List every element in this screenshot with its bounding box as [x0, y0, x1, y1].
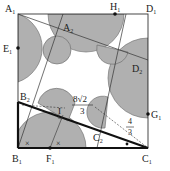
label-b1: B1 — [12, 153, 22, 165]
angle-mark-2: × — [56, 139, 61, 148]
label-c1: C1 — [142, 153, 152, 165]
fraction-numerator: 4 — [128, 117, 132, 126]
fraction-denominator: 3 — [80, 106, 85, 116]
point-e1 — [16, 46, 20, 50]
angle-mark-1: × — [25, 139, 30, 148]
semicircle-e1 — [18, 14, 42, 82]
label-a1: A1 — [5, 3, 15, 15]
label-e1: E1 — [3, 43, 12, 55]
label-h1: H1 — [110, 1, 120, 13]
measurement-4-over-3: 4 3 — [126, 117, 134, 137]
geometry-diagram: × × A1 A2 H1 D1 E1 D2 B2 I G1 C2 B1 F1 C… — [0, 0, 170, 171]
label-b2: B2 — [20, 91, 30, 103]
circle-near-a2 — [43, 36, 71, 64]
label-g1: G1 — [151, 109, 161, 121]
label-d1: D1 — [146, 3, 156, 15]
label-f1: F1 — [46, 153, 55, 165]
label-c2: C2 — [93, 132, 103, 144]
fraction-denominator: 3 — [128, 128, 132, 137]
point-near-c1 — [126, 143, 129, 146]
point-f1 — [48, 146, 52, 150]
label-i: I — [58, 106, 61, 116]
point-g1 — [146, 112, 150, 116]
fraction-numerator: 8√2 — [73, 94, 87, 104]
